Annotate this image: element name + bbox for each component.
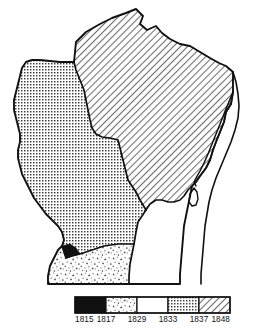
- legend-swatch-1817[interactable]: [106, 297, 137, 313]
- figure-container: 1815 1817 1829 1833 1837 1848: [0, 0, 269, 330]
- legend: 1815 1817 1829 1833 1837 1848: [75, 297, 230, 324]
- legend-tick-1817: 1817: [97, 315, 116, 324]
- legend-tick-1833: 1833: [159, 315, 178, 324]
- legend-tick-1848: 1848: [211, 315, 230, 324]
- legend-swatch-1833[interactable]: [168, 297, 199, 313]
- map-regions: [14, 9, 233, 284]
- legend-swatch-1815[interactable]: [75, 297, 106, 313]
- legend-tick-1815: 1815: [75, 315, 94, 324]
- legend-tick-1837: 1837: [190, 315, 209, 324]
- legend-swatch-1829[interactable]: [137, 297, 168, 313]
- legend-tick-1829: 1829: [128, 315, 147, 324]
- legend-swatch-1837[interactable]: [199, 297, 230, 313]
- wisconsin-land-cession-map: 1815 1817 1829 1833 1837 1848: [0, 0, 269, 330]
